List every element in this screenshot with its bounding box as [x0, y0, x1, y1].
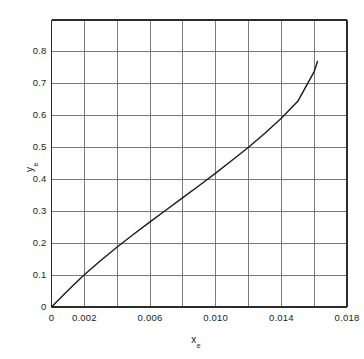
y-axis-title-text: y: [24, 167, 35, 172]
y-tick-label: 0.3: [33, 205, 47, 216]
x-tick-label: 0.014: [251, 312, 311, 323]
y-tick-label: 0.6: [33, 109, 47, 120]
y-axis-title: ye: [24, 163, 37, 172]
y-tick-label: 0.7: [33, 77, 47, 88]
x-tick-label: 0.010: [186, 312, 246, 323]
x-tick-label: 0.002: [54, 312, 114, 323]
y-tick-label: 0.4: [33, 173, 47, 184]
y-tick-label: 0: [41, 301, 46, 312]
x-axis-title: xe: [191, 334, 200, 347]
x-tick-label: 0.006: [120, 312, 180, 323]
y-tick-label: 0.1: [33, 269, 47, 280]
y-tick-label: 0.2: [33, 237, 47, 248]
y-axis-title-subscript: e: [32, 162, 39, 166]
y-tick-label: 0.5: [33, 141, 47, 152]
x-axis-title-text: x: [191, 334, 196, 345]
x-axis-title-subscript: e: [197, 342, 201, 349]
y-tick-label: 0.8: [33, 45, 47, 56]
x-tick-label: 0.018: [317, 312, 364, 323]
series-line: [52, 61, 318, 307]
data-curve: [52, 61, 318, 307]
chart-figure: 00.10.20.30.40.50.60.70.8 00.0020.0060.0…: [0, 0, 364, 359]
plot-area: [0, 0, 364, 359]
